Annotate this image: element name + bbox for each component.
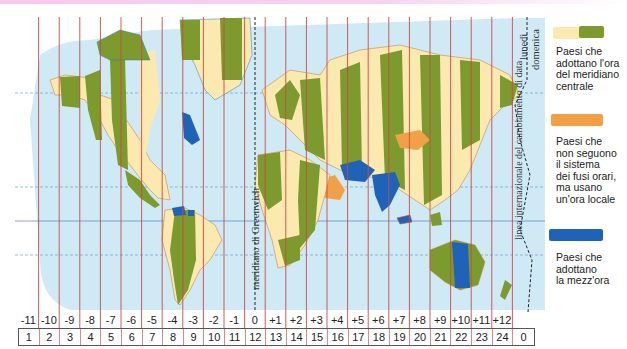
hour-cell: 10: [204, 329, 225, 345]
utc-offset: -10: [39, 313, 60, 327]
hour-cell: 22: [451, 329, 472, 345]
utc-offset: -11: [18, 313, 39, 327]
utc-offset: +5: [348, 313, 369, 327]
hour-cell: 24: [493, 329, 514, 345]
hour-cell: 2: [40, 329, 61, 345]
utc-offset: -7: [100, 313, 121, 327]
hour-cell: 12: [246, 329, 267, 345]
utc-offset: +11: [471, 313, 492, 327]
hour-cell: 7: [143, 329, 164, 345]
hour-cell: 1: [19, 329, 40, 345]
legend-central-meridian: Paesi che adottano l'ora del meridiano c…: [556, 46, 627, 92]
hour-cell: 5: [101, 329, 122, 345]
utc-offset-row: -11 -10 -9 -8 -7 -6 -5 -4 -3 -2 -1 0 +1 …: [18, 313, 533, 327]
utc-offset: +10: [450, 313, 471, 327]
hour-cell: 20: [410, 329, 431, 345]
utc-offset: +1: [265, 313, 286, 327]
hour-cell: 4: [81, 329, 102, 345]
utc-offset: -4: [162, 313, 183, 327]
utc-offset: +7: [389, 313, 410, 327]
hour-cell: 17: [349, 329, 370, 345]
hour-cell: 16: [328, 329, 349, 345]
utc-offset: +2: [286, 313, 307, 327]
legend-swatch-green: [579, 26, 604, 38]
hour-cell: 0: [513, 329, 534, 345]
monday-label: lunedì: [518, 34, 529, 60]
utc-offset: 0: [245, 313, 266, 327]
hour-cell: 19: [390, 329, 411, 345]
legend-swatch-light: [553, 27, 581, 39]
legend-local-time: Paesi che non seguono il sistema dei fus…: [556, 136, 627, 205]
hour-cell: 6: [122, 329, 143, 345]
utc-offset: +3: [306, 313, 327, 327]
utc-offset: -2: [203, 313, 224, 327]
hour-cell: 23: [472, 329, 493, 345]
utc-offset: -5: [142, 313, 163, 327]
utc-offset: -6: [121, 313, 142, 327]
legend-swatch-blue: [549, 229, 603, 241]
hour-cell: 8: [163, 329, 184, 345]
utc-offset: -9: [59, 313, 80, 327]
hour-cell: 3: [60, 329, 81, 345]
utc-offset: -1: [224, 313, 245, 327]
legend-swatch-orange: [551, 114, 603, 126]
hour-cell: 18: [369, 329, 390, 345]
hour-table: 1 2 3 4 5 6 7 8 9 10 11 12 13 14 15 16 1…: [18, 328, 535, 346]
date-line-label: linea internazionale del cambiamento di …: [513, 61, 524, 240]
utc-offset: +12: [492, 313, 513, 327]
hour-cell: 15: [307, 329, 328, 345]
hour-cell: 21: [431, 329, 452, 345]
utc-offset: +4: [327, 313, 348, 327]
utc-offset: +8: [409, 313, 430, 327]
utc-offset: +6: [368, 313, 389, 327]
hour-cell: 13: [266, 329, 287, 345]
utc-offset: -3: [183, 313, 204, 327]
greenwich-label: meridiano di Greenwich: [250, 188, 261, 290]
hour-cell: 14: [287, 329, 308, 345]
central-australia-halfhour: [452, 242, 470, 288]
utc-offset: -8: [80, 313, 101, 327]
utc-offset: [512, 313, 533, 327]
sunday-label: domenica: [530, 29, 541, 70]
hour-cell: 9: [184, 329, 205, 345]
legend-half-hour: Paesi che adottano la mezz'ora: [556, 252, 627, 287]
hour-cell: 11: [225, 329, 246, 345]
utc-offset: +9: [430, 313, 451, 327]
